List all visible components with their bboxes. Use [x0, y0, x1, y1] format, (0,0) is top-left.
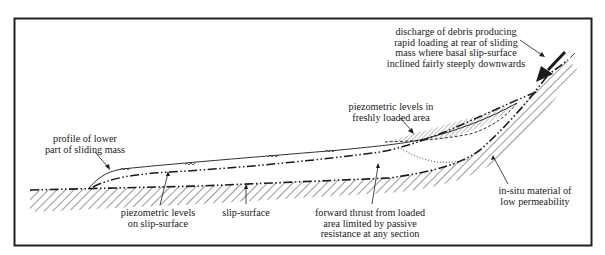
label-line: on slip-surface — [108, 219, 208, 230]
label-line: mass where basal slip-surface — [386, 48, 526, 59]
label-discharge: discharge of debris producing rapid load… — [386, 27, 526, 69]
label-in-situ: in-situ material of low permeability — [485, 186, 585, 207]
label-line: profile of lower — [30, 134, 140, 145]
label-line: part of sliding mass — [30, 145, 140, 156]
label-line: inclined fairly steeply downwards — [386, 59, 526, 70]
label-profile: profile of lower part of sliding mass — [30, 134, 140, 155]
label-line: discharge of debris producing — [386, 27, 526, 38]
label-slip-surface: slip-surface — [206, 208, 286, 219]
label-piezometric-slip: piezometric levels on slip-surface — [108, 208, 208, 229]
label-forward-thrust: forward thrust from loaded area limited … — [305, 208, 435, 240]
slip-surface-line — [30, 60, 568, 190]
label-line: piezometric levels — [108, 208, 208, 219]
passive-resistance-line — [398, 147, 470, 162]
label-line: low permeability — [485, 197, 585, 208]
label-piezometric-fresh: piezometric levels in freshly loaded are… — [336, 102, 446, 123]
label-line: slip-surface — [206, 208, 286, 219]
label-line: piezometric levels in — [336, 102, 446, 113]
label-line: forward thrust from loaded — [305, 208, 435, 219]
label-line: in-situ material of — [485, 186, 585, 197]
label-line: resistance at any section — [305, 229, 435, 240]
label-line: freshly loaded area — [336, 113, 446, 124]
